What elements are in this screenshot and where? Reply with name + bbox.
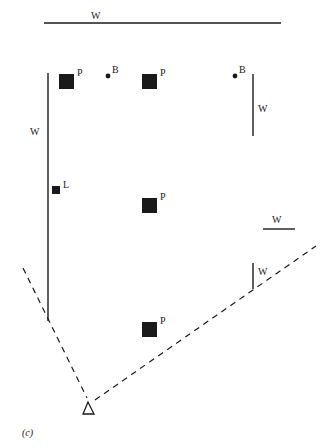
wall-label-right-lower: W xyxy=(258,267,267,277)
pillar-label-3: P xyxy=(160,316,166,326)
figure-caption: (c) xyxy=(22,427,33,438)
diagram-canvas xyxy=(0,0,334,447)
pillar-label-0: P xyxy=(77,68,83,78)
view-cone-edge-1 xyxy=(95,246,316,400)
wall-label-top: W xyxy=(91,11,100,21)
pillar-2 xyxy=(142,198,157,213)
ball-label-1: B xyxy=(239,65,246,75)
ball-label-0: B xyxy=(112,65,119,75)
pillar-1 xyxy=(142,74,157,89)
light-0 xyxy=(52,186,60,194)
ball-1 xyxy=(233,74,238,79)
wall-label-right-mid: W xyxy=(272,215,281,225)
viewer-triangle-icon xyxy=(83,402,94,414)
wall-label-left: W xyxy=(30,127,39,137)
pillar-3 xyxy=(142,322,157,337)
light-label-0: L xyxy=(63,180,69,190)
pillar-label-1: P xyxy=(160,68,166,78)
view-cone-edge-0 xyxy=(23,268,87,398)
pillar-label-2: P xyxy=(160,192,166,202)
ball-0 xyxy=(106,74,111,79)
pillar-0 xyxy=(59,74,74,89)
wall-label-right-upper: W xyxy=(258,104,267,114)
